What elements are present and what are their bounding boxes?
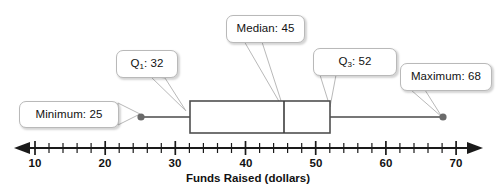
callout-q3[interactable]: Q3: 52 — [313, 48, 397, 76]
maximum-point — [439, 113, 446, 120]
callout-q3-label: Q3: 52 — [338, 56, 371, 68]
x-axis — [14, 141, 483, 155]
callout-q1[interactable]: Q1: 32 — [116, 50, 178, 78]
callout-tail-median — [244, 41, 284, 110]
callout-tail-minimum — [118, 103, 140, 125]
callout-minimum-label: Minimum: 25 — [36, 109, 103, 121]
callout-median-label: Median: 45 — [237, 23, 295, 35]
tick-label-70: 70 — [450, 157, 463, 169]
box-plot-figure: Minimum: 25 Q1: 32 Median: 45 Q3: 52 Max… — [0, 0, 497, 189]
iqr-box — [190, 101, 330, 133]
tick-label-10: 10 — [29, 157, 42, 169]
x-axis-title: Funds Raised (dollars) — [186, 172, 310, 184]
callout-tail-q1 — [150, 76, 186, 111]
callout-q1-label: Q1: 32 — [130, 58, 163, 70]
axis-arrow-left — [14, 142, 30, 154]
callout-maximum[interactable]: Maximum: 68 — [400, 63, 492, 91]
callout-tail-maximum — [411, 90, 442, 117]
axis-arrow-right — [467, 142, 483, 154]
minimum-point — [137, 113, 144, 120]
tick-label-20: 20 — [99, 157, 112, 169]
tick-label-60: 60 — [380, 157, 393, 169]
callout-median[interactable]: Median: 45 — [226, 15, 305, 43]
callout-maximum-label: Maximum: 68 — [411, 71, 481, 83]
callout-minimum[interactable]: Minimum: 25 — [19, 101, 119, 128]
tick-label-50: 50 — [310, 157, 323, 169]
tick-label-40: 40 — [240, 157, 253, 169]
box-whisker-plot — [137, 101, 446, 133]
tick-label-30: 30 — [169, 157, 182, 169]
